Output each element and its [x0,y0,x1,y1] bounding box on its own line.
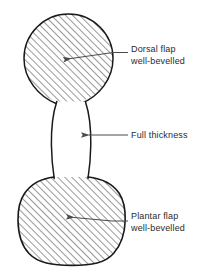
full-thickness-neck [51,102,90,179]
label-plantar-flap: Plantar flap well-bevelled [131,211,185,234]
label-full-thickness: Full thickness [131,130,188,142]
dorsal-flap-lobe [24,14,113,105]
label-plantar-flap-line2: well-bevelled [131,223,185,235]
label-dorsal-flap: Dorsal flap well-bevelled [131,44,185,67]
figure-root: Dorsal flap well-bevelled Full thickness… [0,0,221,278]
label-dorsal-flap-line1: Dorsal flap [131,44,176,54]
label-dorsal-flap-line2: well-bevelled [131,56,185,68]
label-full-thickness-line1: Full thickness [131,130,188,140]
label-plantar-flap-line1: Plantar flap [131,211,178,221]
